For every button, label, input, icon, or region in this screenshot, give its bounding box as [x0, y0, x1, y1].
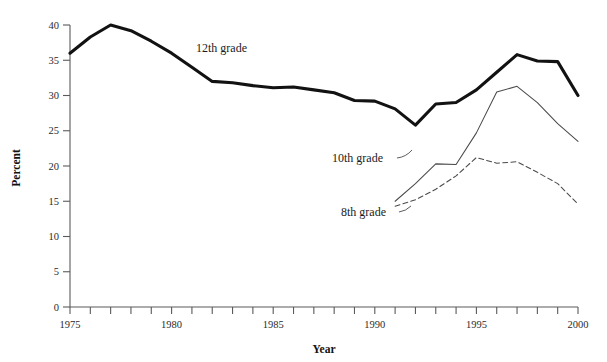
series-label-10th-grade: 10th grade	[332, 151, 383, 165]
leader-line-8th-grade	[399, 206, 411, 212]
series-label-8th-grade: 8th grade	[341, 205, 386, 219]
y-tick-label: 5	[54, 266, 59, 277]
x-tick-label: 1995	[466, 319, 487, 330]
x-tick-label: 1980	[161, 319, 182, 330]
y-tick-label: 35	[49, 55, 60, 66]
chart-container: 0510152025303540 19751980198519901995200…	[0, 0, 607, 362]
y-tick-label: 20	[49, 161, 60, 172]
series-annotations: 12th grade10th grade8th grade	[196, 41, 386, 219]
x-tick-label: 2000	[568, 319, 589, 330]
x-tick-label: 1990	[364, 319, 385, 330]
y-tick-label: 40	[49, 20, 60, 31]
y-tick-label: 10	[49, 231, 60, 242]
series-line-8th-grade	[395, 158, 578, 207]
y-axis-ticks: 0510152025303540	[49, 20, 71, 313]
y-tick-label: 30	[49, 90, 60, 101]
y-axis-title: Percent	[10, 149, 22, 187]
y-tick-label: 0	[54, 302, 59, 313]
x-tick-label: 1975	[60, 319, 81, 330]
line-chart: 0510152025303540 19751980198519901995200…	[0, 0, 607, 362]
series-label-12th-grade: 12th grade	[196, 41, 247, 55]
x-axis-ticks: 197519801985199019952000	[60, 307, 589, 330]
y-tick-label: 15	[49, 196, 60, 207]
series-line-10th-grade	[395, 86, 578, 201]
x-axis-title: Year	[313, 343, 336, 355]
y-tick-label: 25	[49, 125, 60, 136]
series-line-12th-grade	[70, 25, 578, 125]
x-tick-label: 1985	[263, 319, 284, 330]
leader-line-10th-grade	[397, 150, 412, 158]
